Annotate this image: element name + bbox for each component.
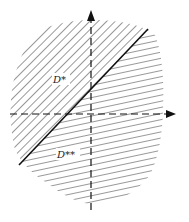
vertical-axis-arrow-icon: [87, 10, 95, 21]
label-d-double-star: D**: [56, 149, 75, 160]
horizontal-axis-arrow-icon: [166, 110, 176, 118]
label-d-star: D*: [52, 74, 66, 85]
diagram-canvas: D* D**: [0, 0, 189, 222]
